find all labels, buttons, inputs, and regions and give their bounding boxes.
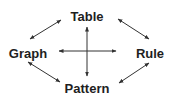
diagram-canvas: Table Graph Rule Pattern <box>0 0 174 100</box>
arrow-table-rule <box>118 19 149 39</box>
node-table: Table <box>71 10 104 23</box>
arrow-graph-table <box>30 20 61 39</box>
node-graph: Graph <box>9 47 47 60</box>
node-rule: Rule <box>136 47 164 60</box>
node-pattern: Pattern <box>65 82 110 95</box>
arrow-pattern-rule <box>119 63 149 83</box>
arrow-graph-pattern <box>28 62 60 82</box>
